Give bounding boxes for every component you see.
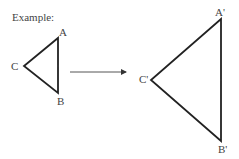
vertex-label-b-prime: B' [218, 144, 227, 155]
vertex-label-c: C [11, 61, 18, 72]
vertex-label-c-prime: C' [139, 74, 148, 85]
vertex-label-a: A [59, 27, 67, 38]
diagram: Example: A B C A' B' C' [0, 0, 239, 159]
original-triangle [24, 38, 58, 93]
image-triangle [151, 19, 221, 141]
vertex-label-a-prime: A' [215, 7, 225, 18]
triangle-diagram [0, 0, 239, 159]
vertex-label-b: B [57, 96, 64, 107]
